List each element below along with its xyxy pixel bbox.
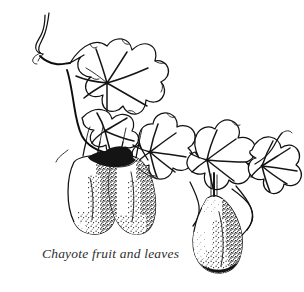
illustration-page: Chayote fruit and leaves xyxy=(0,0,304,292)
illustration-caption: Chayote fruit and leaves xyxy=(42,246,179,262)
